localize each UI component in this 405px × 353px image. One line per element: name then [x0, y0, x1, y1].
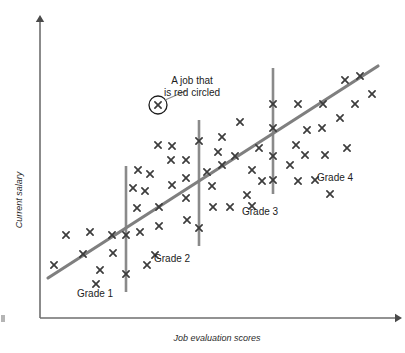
data-point-marker	[155, 142, 161, 148]
data-point-marker	[156, 223, 162, 229]
data-point-marker	[147, 171, 153, 177]
data-point-marker	[352, 101, 358, 107]
data-point-marker	[237, 119, 243, 125]
grade-labels-group: Grade 1Grade 2Grade 3Grade 4	[77, 172, 354, 299]
data-point-marker	[295, 178, 301, 184]
data-point-marker	[137, 229, 143, 235]
grade-label-1: Grade 1	[77, 288, 114, 299]
data-point-marker	[210, 204, 216, 210]
data-point-marker	[63, 232, 69, 238]
chart-canvas: A job that is red circled Grade 1Grade 2…	[0, 0, 405, 353]
data-point-marker	[227, 204, 233, 210]
annotation-text-line-2: is red circled	[164, 87, 220, 98]
data-point-marker	[304, 127, 310, 133]
scatter-chart-figure: A job that is red circled Grade 1Grade 2…	[0, 0, 405, 353]
data-point-marker	[256, 145, 262, 151]
data-point-marker	[93, 281, 99, 287]
grade-label-3: Grade 3	[242, 206, 279, 217]
y-axis-arrow-icon	[36, 15, 44, 22]
data-point-marker	[293, 142, 299, 148]
data-point-marker	[219, 134, 225, 140]
grade-label-4: Grade 4	[317, 172, 354, 183]
data-point-marker	[327, 191, 333, 197]
data-point-marker	[183, 175, 189, 181]
data-point-marker	[169, 182, 175, 188]
data-point-marker	[169, 143, 175, 149]
data-point-marker	[183, 157, 189, 163]
x-axis-arrow-icon	[395, 314, 402, 322]
x-axis-title: Job evaluation scores	[172, 333, 261, 343]
data-point-marker	[319, 125, 325, 131]
data-point-marker	[87, 229, 93, 235]
data-point-marker	[209, 183, 215, 189]
data-point-marker	[244, 192, 250, 198]
data-point-marker	[184, 217, 190, 223]
y-axis-title: Current salary	[14, 171, 24, 228]
data-point-marker	[295, 101, 301, 107]
data-point-marker	[249, 167, 255, 173]
data-point-marker	[130, 185, 136, 191]
data-point-marker	[183, 195, 189, 201]
data-point-marker	[259, 178, 265, 184]
data-point-marker	[135, 167, 141, 173]
data-point-marker	[344, 145, 350, 151]
data-point-marker	[287, 162, 293, 168]
data-point-marker	[215, 149, 221, 155]
data-point-marker	[144, 262, 150, 268]
axes-group	[1, 15, 402, 322]
data-point-marker	[337, 115, 343, 121]
annotation-group: A job that is red circled	[149, 75, 220, 114]
data-point-marker	[134, 205, 140, 211]
data-point-marker	[168, 157, 174, 163]
data-point-marker	[369, 91, 375, 97]
data-point-marker	[155, 102, 161, 108]
data-point-marker	[142, 188, 148, 194]
data-point-marker	[302, 152, 308, 158]
data-point-marker	[51, 262, 57, 268]
data-point-marker	[110, 250, 116, 256]
data-point-marker	[97, 267, 103, 273]
grade-label-2: Grade 2	[154, 253, 191, 264]
annotation-text-line-1: A job that	[171, 75, 213, 86]
data-point-marker	[322, 152, 328, 158]
data-point-marker	[342, 77, 348, 83]
edge-artifact-mark	[1, 315, 5, 322]
